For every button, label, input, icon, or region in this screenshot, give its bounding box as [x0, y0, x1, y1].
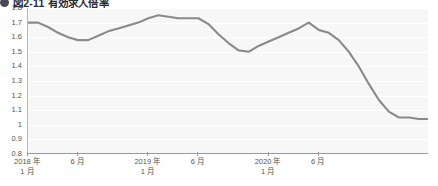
x-axis-tick [268, 152, 269, 156]
x-axis-tick [77, 152, 78, 156]
x-axis: 2018 年1 月6 月2019 年1 月6 月2020 年1 月6 月 [0, 156, 438, 186]
x-axis-tick [147, 152, 148, 156]
y-axis-tick-label: 1 [18, 121, 22, 129]
x-axis-tick-label: 2020 年1 月 [255, 157, 281, 177]
line-series [28, 8, 428, 154]
x-axis-tick [318, 152, 319, 156]
chart-page: 図2-11 有効求人倍率 1.81.71.61.51.41.31.21.110.… [0, 0, 438, 186]
y-axis-tick-label: 0.9 [12, 136, 22, 144]
x-axis-tick-label: 2018 年1 月 [14, 157, 40, 177]
x-axis-tick-label: 6 月 [191, 157, 204, 167]
series-line [28, 15, 428, 119]
plot-area [27, 8, 428, 154]
y-axis-labels: 1.81.71.61.51.41.31.21.110.90.8 [0, 8, 25, 154]
y-axis-tick-label: 1.7 [12, 19, 22, 27]
y-axis-tick-label: 1.1 [12, 106, 22, 114]
x-axis-tick-label: 6 月 [70, 157, 83, 167]
y-axis-tick-label: 1.8 [12, 4, 22, 12]
y-axis-tick-label: 1.2 [12, 92, 22, 100]
y-axis-tick-label: 1.6 [12, 33, 22, 41]
y-axis-tick-label: 1.3 [12, 77, 22, 85]
y-axis-tick-label: 1.4 [12, 63, 22, 71]
chart-area: 1.81.71.61.51.41.31.21.110.90.8 [0, 8, 438, 156]
filled-circle-bullet-icon [0, 0, 9, 7]
y-axis-tick-label: 1.5 [12, 48, 22, 56]
x-axis-tick [197, 152, 198, 156]
x-axis-tick [27, 152, 28, 156]
x-axis-tick-label: 6 月 [311, 157, 324, 167]
x-axis-tick-label: 2019 年1 月 [134, 157, 160, 177]
